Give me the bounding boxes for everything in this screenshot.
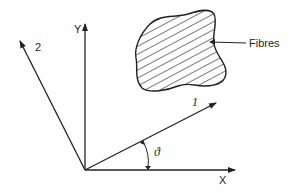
- y-axis-label: Y: [74, 23, 82, 35]
- x-axis-label: X: [219, 174, 227, 186]
- angle-label: ϑ: [154, 145, 161, 159]
- fibres-leader-line: [209, 39, 246, 45]
- axis-2-label: 2: [35, 41, 41, 53]
- fibre-orientation-diagram: Y X 1 2 ϑ Fibres: [0, 0, 299, 193]
- fibres-region: [120, 0, 240, 100]
- axis-1-label: 1: [192, 95, 198, 109]
- fibres-label: Fibres: [249, 37, 280, 49]
- axis-2: [20, 41, 85, 170]
- angle-arc: [140, 140, 151, 170]
- axis-1: [85, 103, 216, 170]
